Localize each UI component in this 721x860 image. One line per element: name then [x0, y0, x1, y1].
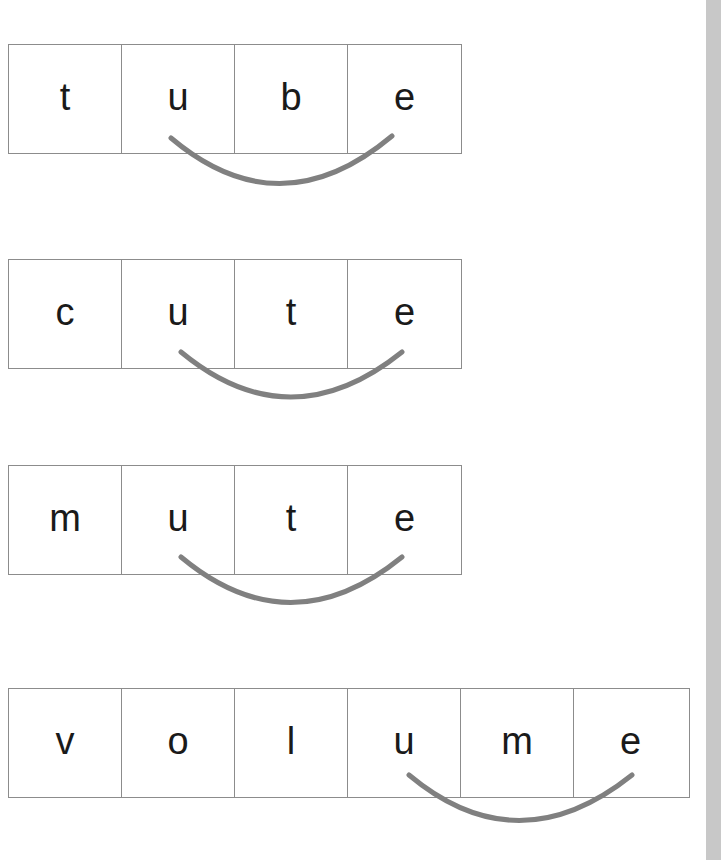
letter-cell: t	[235, 466, 348, 574]
letter-cell: b	[235, 45, 348, 153]
letter-cell: e	[574, 689, 687, 797]
word-box-mute: m u t e	[8, 465, 462, 575]
side-strip	[706, 0, 721, 860]
letter-cell: o	[122, 689, 235, 797]
letter-cell: u	[122, 466, 235, 574]
letter-cell: l	[235, 689, 348, 797]
letter-cell: u	[122, 260, 235, 368]
word-box-tube: t u b e	[8, 44, 462, 154]
word-box-volume: v o l u m e	[8, 688, 690, 798]
letter-cell: u	[348, 689, 461, 797]
letter-cell: u	[122, 45, 235, 153]
letter-cell: m	[9, 466, 122, 574]
letter-cell: c	[9, 260, 122, 368]
letter-cell: e	[348, 45, 461, 153]
letter-cell: e	[348, 466, 461, 574]
letter-cell: t	[235, 260, 348, 368]
letter-cell: t	[9, 45, 122, 153]
letter-cell: e	[348, 260, 461, 368]
word-box-cute: c u t e	[8, 259, 462, 369]
letter-cell: m	[461, 689, 574, 797]
letter-cell: v	[9, 689, 122, 797]
